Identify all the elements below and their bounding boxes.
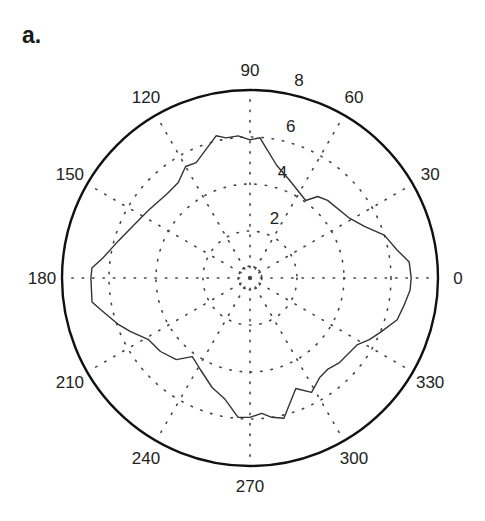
angle-label: 330 bbox=[416, 373, 444, 392]
radius-label: 8 bbox=[294, 71, 303, 90]
angle-label: 300 bbox=[340, 449, 368, 468]
polar-plot: 0306090120150180210240270300330 2468 bbox=[0, 0, 485, 521]
radius-label: 6 bbox=[286, 117, 295, 136]
angle-label: 30 bbox=[421, 165, 440, 184]
angle-label: 240 bbox=[132, 449, 160, 468]
angle-label: 120 bbox=[132, 88, 160, 107]
angle-label: 90 bbox=[241, 61, 260, 80]
angle-label: 150 bbox=[56, 165, 84, 184]
polar-grid bbox=[68, 96, 433, 461]
angle-label: 180 bbox=[28, 269, 56, 288]
angle-label: 0 bbox=[453, 269, 462, 288]
angle-label: 270 bbox=[236, 477, 264, 496]
grid-spoke bbox=[250, 278, 408, 369]
radius-label: 2 bbox=[270, 209, 279, 228]
grid-spoke bbox=[250, 187, 408, 278]
grid-spoke bbox=[159, 120, 250, 278]
grid-spoke bbox=[250, 278, 341, 436]
angle-label: 60 bbox=[345, 88, 364, 107]
angle-label: 210 bbox=[56, 373, 84, 392]
